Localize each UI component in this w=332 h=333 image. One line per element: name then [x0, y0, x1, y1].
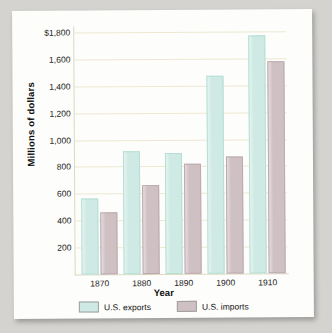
bar-group: [80, 32, 117, 274]
legend-item: U.S. imports: [177, 300, 249, 311]
plot-area: $1,8001,6001,4001,2001,000800600400200 1…: [74, 31, 287, 274]
y-axis-tick-label: 1,000: [50, 135, 71, 145]
legend-swatch: [79, 301, 99, 312]
y-axis-tick-label: 800: [57, 162, 71, 172]
y-axis-title: Millions of dollars: [25, 64, 37, 184]
legend-item: U.S. exports: [79, 301, 151, 312]
bar-groups: [74, 31, 286, 32]
bar-group: [122, 32, 159, 274]
bar-group: [164, 32, 201, 274]
bar: [248, 35, 266, 273]
bar: [226, 157, 244, 274]
bar: [206, 76, 224, 274]
y-axis-line: [73, 27, 76, 276]
x-axis-title: Year: [14, 286, 314, 299]
y-axis-tick-label: $1,800: [44, 28, 70, 38]
bar: [165, 153, 183, 274]
y-axis-tick-label: 200: [57, 243, 71, 253]
chart-legend: U.S. exportsU.S. imports: [14, 300, 314, 313]
bar: [123, 151, 141, 274]
y-axis-tick-label: 1,200: [49, 108, 70, 118]
bar: [81, 198, 98, 274]
bar-group: [206, 32, 243, 274]
chart-figure: Millions of dollars $1,8001,6001,4001,20…: [12, 9, 314, 319]
y-axis-tick-label: 400: [57, 216, 71, 226]
y-axis-tick-label: 600: [57, 189, 71, 199]
bar: [267, 62, 285, 274]
legend-label: U.S. exports: [104, 302, 151, 312]
bar-group: [248, 31, 285, 273]
bar: [100, 212, 117, 275]
legend-label: U.S. imports: [202, 301, 249, 311]
y-axis-tick-label: 1,400: [49, 81, 70, 91]
bar: [142, 185, 160, 274]
chart-page: Millions of dollars $1,8001,6001,4001,20…: [12, 9, 314, 319]
bar: [184, 164, 202, 274]
legend-swatch: [177, 301, 197, 312]
y-axis-tick-label: 1,600: [49, 54, 70, 64]
